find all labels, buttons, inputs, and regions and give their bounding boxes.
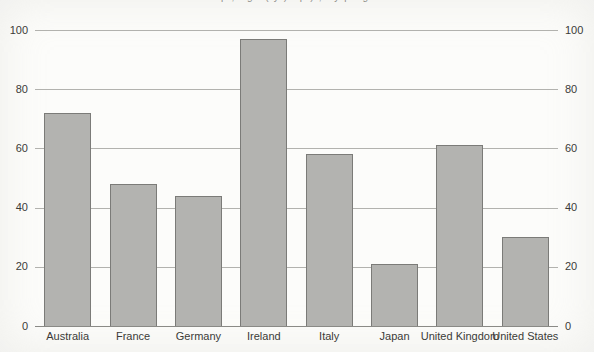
y-axis-right: 020406080100 bbox=[565, 30, 591, 326]
bar-italy bbox=[306, 154, 353, 326]
bar-japan bbox=[371, 264, 418, 326]
y-tick-right-80: 80 bbox=[565, 84, 591, 95]
y-tick-right-0: 0 bbox=[565, 321, 591, 332]
x-label-united-states: United States bbox=[470, 331, 580, 342]
bar-united-states bbox=[502, 237, 549, 326]
gridline-100 bbox=[35, 30, 558, 31]
gridline-80 bbox=[35, 89, 558, 90]
bar-france bbox=[110, 184, 157, 326]
y-tick-left-0: 0 bbox=[2, 321, 28, 332]
bar-united-kingdom bbox=[436, 145, 483, 326]
bar-ireland bbox=[240, 39, 287, 326]
plot-area bbox=[35, 30, 558, 326]
y-tick-left-100: 100 bbox=[2, 25, 28, 36]
y-tick-left-20: 20 bbox=[2, 261, 28, 272]
y-axis-left: 020406080100 bbox=[2, 30, 28, 326]
y-tick-left-40: 40 bbox=[2, 202, 28, 213]
y-tick-right-40: 40 bbox=[565, 202, 591, 213]
scanned-chart-page: p, g (y) p), yp g 020406080100 020406080… bbox=[0, 0, 594, 352]
x-axis: AustraliaFranceGermanyIrelandItalyJapanU… bbox=[35, 331, 558, 345]
clipped-chart-title: p, g (y) p), yp g bbox=[0, 0, 594, 2]
y-tick-right-20: 20 bbox=[565, 261, 591, 272]
bar-germany bbox=[175, 196, 222, 326]
y-tick-left-80: 80 bbox=[2, 84, 28, 95]
y-tick-right-100: 100 bbox=[565, 25, 591, 36]
y-tick-left-60: 60 bbox=[2, 143, 28, 154]
y-tick-right-60: 60 bbox=[565, 143, 591, 154]
bar-australia bbox=[44, 113, 91, 326]
x-axis-line bbox=[35, 326, 558, 327]
